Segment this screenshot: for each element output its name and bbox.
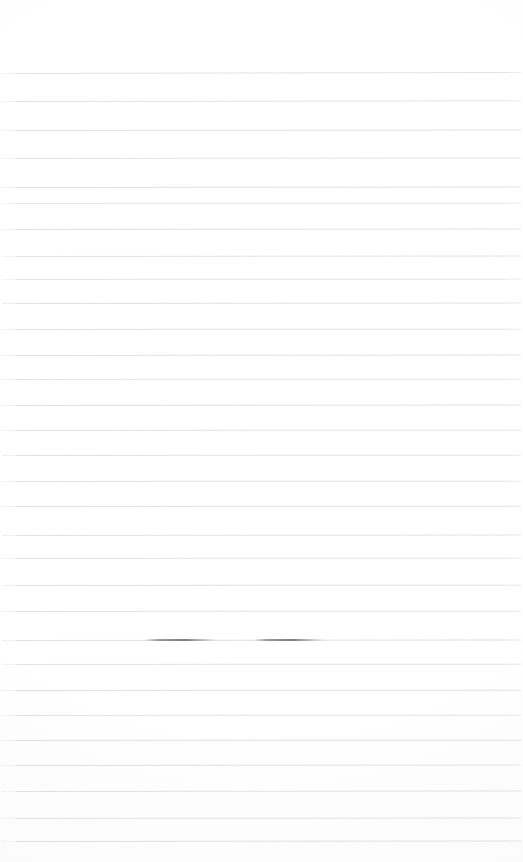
lined-paper-page [0,0,523,862]
rule-line [2,506,521,507]
rule-line [2,229,521,230]
rule-line [2,355,521,356]
rule-line [2,690,521,691]
rule-line [2,740,521,741]
rule-line [2,765,521,766]
rule-line [2,256,521,257]
rule-line [2,585,521,586]
rule-line [2,203,521,204]
pen-stroke-mark [254,639,324,641]
rule-line [2,379,521,380]
rule-line [2,158,521,159]
rule-line [2,72,521,74]
rule-line [2,455,521,456]
rule-line [2,611,521,612]
rule-line [2,818,521,819]
rule-line [2,186,521,188]
rule-line [2,840,521,842]
rule-line [2,558,521,559]
rule-line [2,329,521,330]
rule-line [2,303,521,304]
rule-line [2,535,521,536]
pen-stroke-mark [145,639,217,641]
rule-line [2,405,521,406]
rule-line [2,791,521,792]
rule-line [2,664,521,665]
rule-line [2,129,521,131]
rule-line [2,279,521,280]
rule-line [2,430,521,431]
rule-line [2,715,521,716]
rule-line [2,481,521,482]
ruled-lines-layer [0,0,523,862]
rule-line [2,100,521,102]
